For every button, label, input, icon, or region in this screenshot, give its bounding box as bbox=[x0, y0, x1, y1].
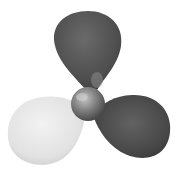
hub-highlight bbox=[76, 93, 88, 101]
blade-top-highlight bbox=[91, 72, 103, 88]
propeller-hub bbox=[71, 87, 105, 121]
propeller-illustration bbox=[0, 0, 183, 179]
